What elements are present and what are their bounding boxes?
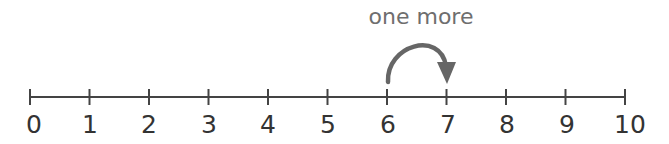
tick-label-7: 7: [440, 110, 456, 139]
tick-label-4: 4: [260, 110, 276, 139]
tick-label-2: 2: [141, 110, 157, 139]
tick-label-0: 0: [26, 110, 42, 139]
tick-label-9: 9: [559, 110, 575, 139]
number-line-diagram: one more 0 1 2 3 4 5 6 7 8 9 10: [0, 0, 669, 144]
tick-label-3: 3: [201, 110, 217, 139]
tick-label-5: 5: [320, 110, 336, 139]
jump-caption: one more: [369, 4, 474, 29]
tick-label-1: 1: [82, 110, 98, 139]
tick-label-8: 8: [499, 110, 515, 139]
tick-label-10: 10: [614, 110, 646, 139]
jump-arrow-icon: [388, 45, 456, 84]
tick-label-6: 6: [380, 110, 396, 139]
tick-labels: 0 1 2 3 4 5 6 7 8 9 10: [26, 110, 646, 139]
